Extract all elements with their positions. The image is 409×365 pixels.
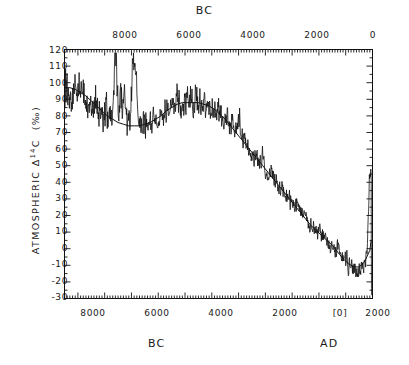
data-series-measured xyxy=(65,53,372,295)
figure-panel: BC ATMOSPHERIC Δ14C (‰) 8000 6000 4000 2… xyxy=(0,0,409,365)
top-axis-ticks xyxy=(65,50,373,56)
plot-area xyxy=(0,0,409,365)
axis-frame xyxy=(65,50,373,299)
bottom-axis-ticks xyxy=(65,293,373,299)
